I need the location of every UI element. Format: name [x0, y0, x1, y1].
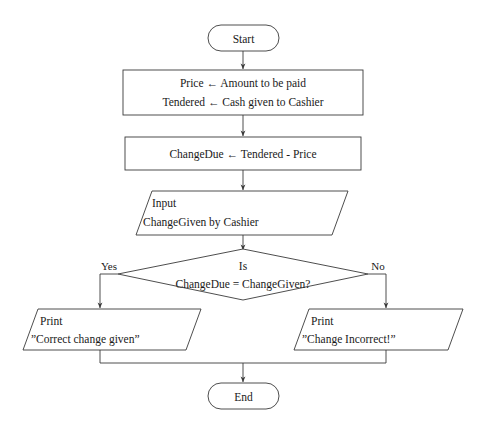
- node-start: Start: [208, 25, 279, 51]
- input-line2: ChangeGiven by Cashier: [143, 216, 259, 229]
- compute-line1: ChangeDue ← Tendered - Price: [169, 148, 316, 161]
- input-line1: Input: [152, 197, 177, 210]
- branch-label-yes: Yes: [101, 260, 117, 272]
- flowchart-diagram: Start Price ← Amount to be paid Tendered…: [0, 0, 491, 421]
- output-no-line1: Print: [311, 315, 334, 327]
- node-output-yes: Print ”Correct change given”: [23, 309, 201, 350]
- init-line1: Price ← Amount to be paid: [180, 77, 306, 90]
- edge-output-no-to-merge: [243, 350, 386, 363]
- output-no-line2: ”Change Incorrect!”: [302, 333, 396, 346]
- output-yes-line2: ”Correct change given”: [31, 333, 140, 346]
- decision-line1: Is: [239, 260, 248, 272]
- edge-decision-no: [368, 274, 386, 308]
- init-line2: Tendered ← Cash given to Cashier: [162, 96, 323, 109]
- start-label: Start: [233, 33, 256, 45]
- node-input: Input ChangeGiven by Cashier: [136, 191, 348, 235]
- node-output-no: Print ”Change Incorrect!”: [294, 309, 463, 350]
- decision-diamond-shape: [118, 249, 368, 300]
- output-yes-line1: Print: [40, 315, 63, 327]
- edge-output-yes-to-merge: [100, 350, 243, 363]
- node-compute-process: ChangeDue ← Tendered - Price: [125, 137, 361, 170]
- edge-decision-yes: [100, 274, 118, 308]
- decision-line2: ChangeDue = ChangeGiven?: [176, 278, 311, 291]
- branch-label-no: No: [371, 260, 385, 272]
- node-decision: Is ChangeDue = ChangeGiven?: [118, 249, 368, 300]
- node-init-process: Price ← Amount to be paid Tendered ← Cas…: [123, 70, 363, 115]
- node-end: End: [208, 383, 279, 409]
- end-label: End: [234, 391, 253, 403]
